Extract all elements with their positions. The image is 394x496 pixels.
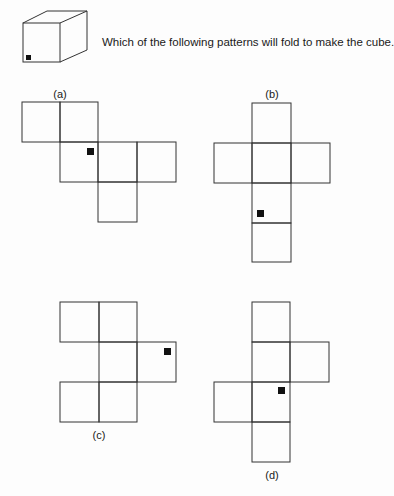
question-text: Which of the following patterns will fol…	[102, 36, 394, 48]
net-b[interactable]	[214, 103, 330, 262]
option-label-c: (c)	[93, 429, 106, 441]
option-label-d: (d)	[265, 469, 278, 481]
option-label-b: (b)	[265, 88, 278, 100]
net-a-marker	[87, 148, 94, 155]
cube-marker-square	[26, 55, 31, 60]
net-d-marker	[278, 387, 285, 394]
net-c-marker	[164, 348, 171, 355]
net-c[interactable]	[60, 302, 176, 422]
net-d[interactable]	[214, 302, 329, 462]
cube-illustration	[23, 11, 87, 62]
option-label-a: (a)	[53, 88, 66, 100]
net-b-marker	[257, 210, 264, 217]
net-a[interactable]	[22, 102, 176, 222]
